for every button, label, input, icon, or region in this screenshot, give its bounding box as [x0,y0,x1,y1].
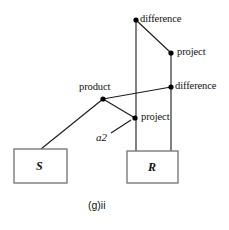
annotation-a2-label: a2 [96,131,107,143]
diagram-canvas [0,0,229,230]
edge-line [41,99,103,149]
node-difference-right-label: difference [175,80,216,91]
node-project-lower-label: project [141,111,169,122]
node-difference-top-label: difference [140,13,181,24]
node-product-label: product [79,81,110,92]
box-s-label: S [36,159,43,174]
figure-caption: (g)ii [88,199,106,211]
node-project-upper-label: project [177,46,205,57]
node-product-dot [100,96,105,101]
node-difference-top-dot [133,17,138,22]
node-project-lower-dot [132,115,137,120]
edge-line [103,99,135,118]
annotation-leaders-group [111,120,131,133]
node-project-upper-dot [168,50,173,55]
node-difference-right-dot [168,84,173,89]
annotation-a2-leader-line [111,120,131,133]
edge-line [136,20,171,53]
box-r-label: R [148,160,156,175]
node-dots-group [100,17,173,120]
figure-diagram: SRa2differenceprojectdifferenceproductpr… [0,0,229,230]
edge-line [103,87,171,99]
